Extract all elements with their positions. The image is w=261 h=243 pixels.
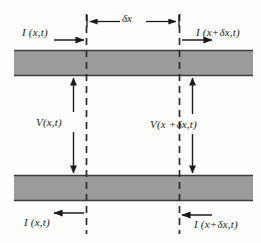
label-current-left-top: I (x,t) — [22, 26, 48, 38]
label-voltage-left: V(x,t) — [36, 116, 62, 128]
delta-x-dimension-line — [87, 15, 179, 27]
bottom-conductor-bar — [14, 176, 253, 201]
top-conductor-bar — [14, 51, 253, 76]
label-delta-x: δx — [122, 12, 132, 24]
label-current-right-bottom: I (x+δx,t) — [194, 218, 238, 230]
label-current-left-bottom: I (x,t) — [24, 216, 50, 228]
label-voltage-right: V(x +δx,t) — [150, 118, 197, 130]
label-current-right-top: I (x+δx,t) — [196, 26, 240, 38]
transmission-line-diagram: I (x,t) I (x+δx,t) I (x,t) I (x+δx,t) V(… — [0, 0, 261, 243]
